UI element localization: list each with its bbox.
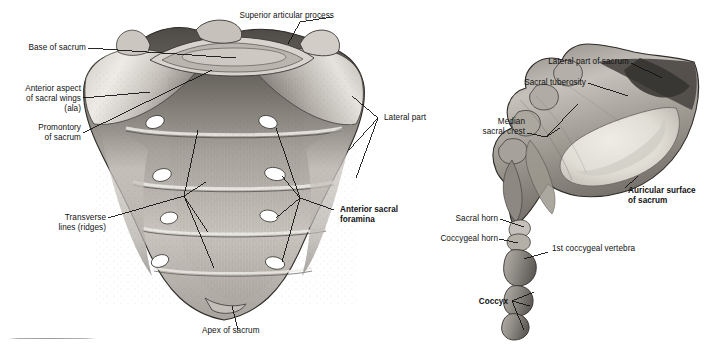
label-base-of-sacrum: Base of sacrum xyxy=(28,43,86,53)
label-transverse-lines-line1: Transverse xyxy=(65,213,106,223)
bone-texture-stipple xyxy=(96,70,356,305)
label-sacral-tuberosity: Sacral tuberosity xyxy=(524,78,586,88)
illustration-layer xyxy=(0,0,709,345)
label-first-coccygeal-vertebra: 1st coccygeal vertebra xyxy=(552,244,635,254)
second-coccygeal-vertebra xyxy=(504,286,533,316)
label-anterior-sacral-foramina-line2: foramina xyxy=(340,215,375,225)
label-anterior-aspect-of-sacral-wings-line2: of sacral wings xyxy=(26,94,81,104)
label-lateral-part-of-sacrum: Lateral part of sacrum xyxy=(548,57,629,67)
l5-vertebra-fragment xyxy=(196,20,242,43)
first-coccygeal-vertebra xyxy=(504,250,537,286)
s1-body-superior-surface xyxy=(182,48,286,66)
label-sacral-horn: Sacral horn xyxy=(456,214,498,224)
anatomy-figure: Superior articular process Base of sacru… xyxy=(0,0,709,345)
label-median-sacral-crest-line1: Median xyxy=(498,117,525,127)
label-promontory-of-sacrum-line1: Promontory xyxy=(38,123,81,133)
label-anterior-sacral-foramina-line1: Anterior sacral xyxy=(340,205,398,215)
coccyx-segments xyxy=(502,250,537,340)
coccygeal-horn xyxy=(507,234,530,251)
label-lateral-part: Lateral part xyxy=(384,113,426,123)
bottom-rule xyxy=(8,338,96,339)
label-auricular-surface-line1: Auricular surface xyxy=(628,186,696,196)
label-median-sacral-crest-line2: sacral crest xyxy=(483,127,525,137)
label-transverse-lines-line2: lines (ridges) xyxy=(58,223,106,233)
anterior-sacrum-illustration xyxy=(83,17,378,330)
label-auricular-surface-line2: of sacrum xyxy=(628,196,667,206)
label-anterior-aspect-of-sacral-wings-line3: (ala) xyxy=(64,104,81,114)
label-coccygeal-horn: Coccygeal horn xyxy=(440,234,498,244)
label-coccyx: Coccyx xyxy=(479,297,508,307)
label-superior-articular-process: Superior articular process xyxy=(239,11,334,21)
third-fourth-coccygeal-vertebrae xyxy=(502,314,529,340)
superior-articular-process-right xyxy=(300,30,340,56)
label-promontory-of-sacrum-line2: of sacrum xyxy=(45,133,81,143)
label-apex-of-sacrum: Apex of sacrum xyxy=(202,326,260,336)
label-anterior-aspect-of-sacral-wings-line1: Anterior aspect xyxy=(25,84,81,94)
